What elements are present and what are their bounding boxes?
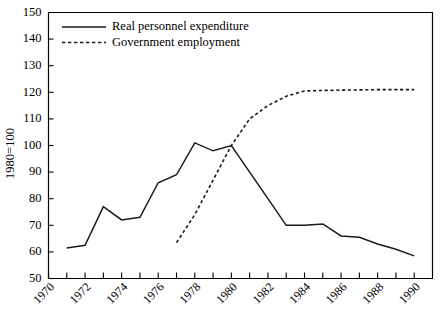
x-axis-tick-label: 1978 (177, 280, 204, 307)
x-axis-tick-label: 1982 (250, 280, 277, 307)
y-axis-tick-label: 50 (29, 271, 42, 285)
y-axis-tick-label: 120 (23, 85, 42, 99)
y-axis-tick-label: 150 (23, 5, 42, 19)
y-axis-tick-label: 140 (23, 31, 42, 45)
y-axis-tick-label: 110 (23, 111, 41, 125)
legend-label-0: Real personnel expenditure (112, 19, 249, 33)
y-axis-tick-label: 70 (29, 218, 42, 232)
x-axis-tick-label: 1976 (140, 280, 167, 307)
y-axis-tick-label: 100 (23, 138, 42, 152)
x-axis-tick-label: 1972 (67, 280, 94, 307)
x-axis-tick-label: 1986 (323, 280, 350, 307)
line-chart: 5060708090100110120130140150197019721974… (0, 0, 446, 322)
x-axis-tick-label: 1988 (359, 280, 386, 307)
series-line-real-personnel-expenditure (67, 143, 414, 256)
y-axis-tick-label: 80 (29, 191, 42, 205)
plot-frame (49, 13, 433, 279)
y-axis-tick-label: 60 (29, 244, 42, 258)
x-axis-tick-label: 1980 (213, 280, 240, 307)
y-axis-tick-label: 130 (23, 58, 42, 72)
x-axis-tick-label: 1990 (396, 280, 423, 307)
x-axis-tick-label: 1984 (286, 280, 313, 307)
series-line-government-employment (177, 90, 415, 243)
y-axis-tick-label: 90 (29, 164, 42, 178)
y-axis-title: 1980=100 (3, 128, 17, 179)
legend-label-1: Government employment (112, 35, 241, 49)
chart-figure: 5060708090100110120130140150197019721974… (0, 0, 446, 322)
x-axis-tick-label: 1974 (103, 280, 130, 307)
